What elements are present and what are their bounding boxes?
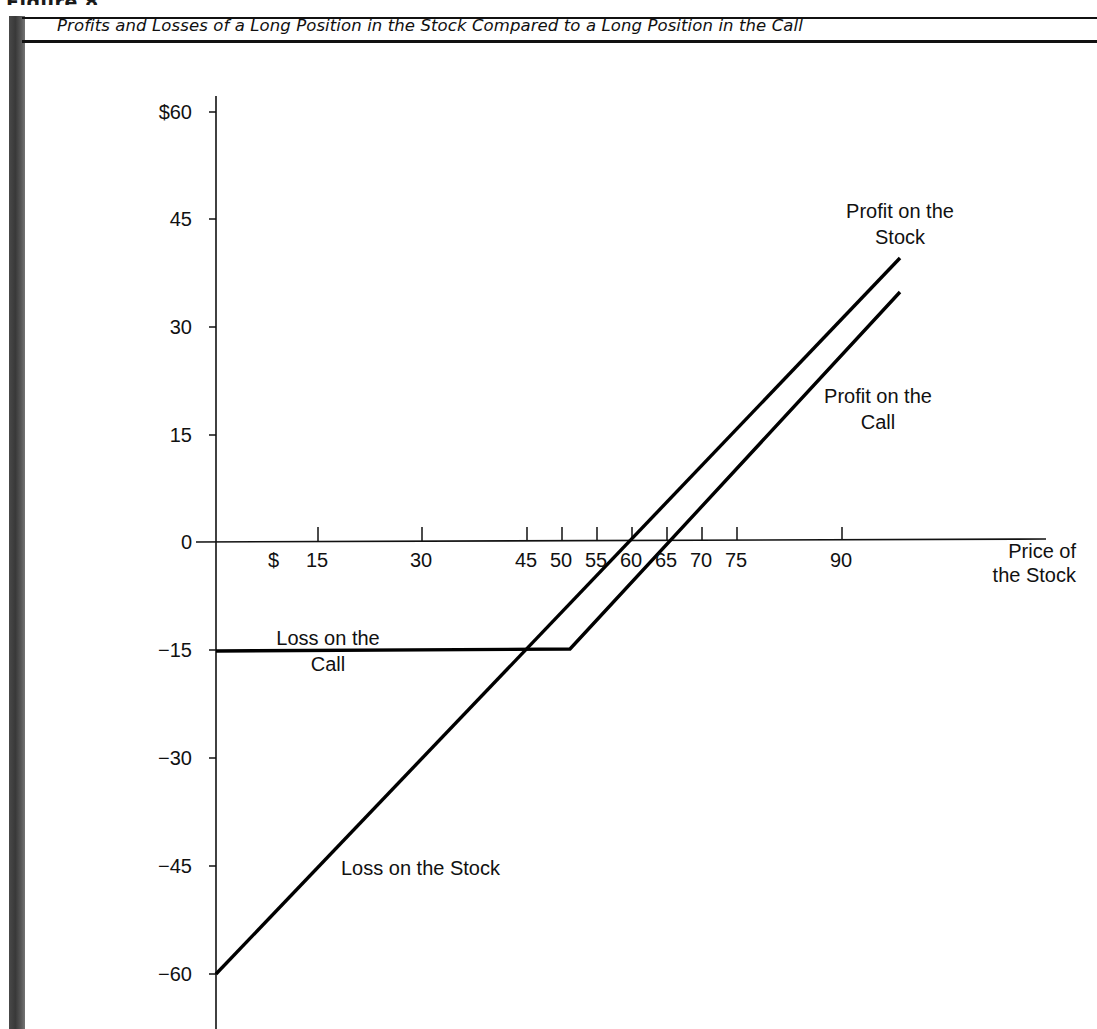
y-tick-label-neg60: −60 [104, 963, 192, 986]
x-tick-label-90: 90 [830, 549, 852, 572]
annotation-profit-on-stock-line2: Stock [800, 224, 1000, 250]
annotation-profit-on-call-line1: Profit on the [778, 383, 978, 409]
annotation-profit-on-stock-line1: Profit on the [800, 198, 1000, 224]
x-tick-label-15: 15 [306, 549, 328, 572]
y-tick-label-60: $60 [110, 101, 192, 124]
x-tick-label-dollar: $ [268, 549, 279, 572]
x-tick-label-45: 45 [515, 549, 537, 572]
annotation-loss-on-call-line1: Loss on the [228, 625, 428, 651]
series-long-call [216, 292, 900, 651]
y-tick-label-neg15: −15 [104, 639, 192, 662]
x-tick-label-30: 30 [410, 549, 432, 572]
y-tick-label-30: 30 [110, 316, 192, 339]
y-axis-ticks [209, 112, 216, 974]
x-axis-title-line1: Price of [890, 538, 1076, 564]
annotation-loss-on-call-line2: Call [228, 651, 428, 677]
y-tick-label-45: 45 [110, 208, 192, 231]
annotation-profit-on-call-line2: Call [778, 409, 978, 435]
x-tick-label-55: 55 [585, 549, 607, 572]
annotation-loss-on-stock: Loss on the Stock [341, 855, 500, 881]
y-tick-label-15: 15 [110, 424, 192, 447]
y-tick-label-neg45: −45 [104, 855, 192, 878]
y-tick-label-0: 0 [110, 531, 192, 554]
x-axis-title-line2: the Stock [890, 562, 1076, 588]
x-tick-label-60: 60 [620, 549, 642, 572]
x-tick-label-70: 70 [690, 549, 712, 572]
x-tick-label-75: 75 [725, 549, 747, 572]
x-tick-label-65: 65 [655, 549, 677, 572]
x-tick-label-50: 50 [550, 549, 572, 572]
y-tick-label-neg30: −30 [104, 747, 192, 770]
series-long-stock [216, 258, 900, 974]
